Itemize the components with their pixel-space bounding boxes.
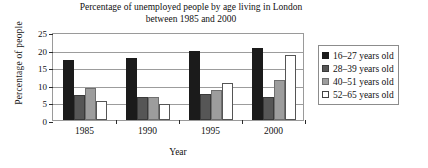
chart-legend: 16–27 years old28–39 years old40–51 year… — [318, 45, 399, 105]
bar — [189, 51, 200, 120]
x-axis-tick — [116, 120, 117, 124]
legend-label: 16–27 years old — [333, 51, 394, 61]
y-axis-tick — [49, 122, 53, 123]
bar-group — [242, 34, 305, 120]
legend-swatch-icon — [322, 65, 329, 72]
legend-swatch-icon — [322, 91, 329, 98]
x-axis-tick — [179, 120, 180, 124]
x-axis-tick — [305, 120, 306, 124]
bar-group — [116, 34, 179, 120]
chart-title-line-1: Percentage of unemployed people by age l… — [46, 2, 336, 14]
plot-inner: 05101520251985199019952000 — [53, 34, 303, 120]
y-axis-tick-label: 5 — [43, 99, 48, 109]
y-axis-tick-label: 20 — [38, 47, 47, 57]
chart-title-line-2: between 1985 and 2000 — [46, 14, 336, 26]
legend-swatch-icon — [322, 52, 329, 59]
bar — [211, 90, 222, 120]
bar — [159, 104, 170, 120]
chart-title: Percentage of unemployed people by age l… — [46, 2, 336, 25]
y-axis-tick-label: 25 — [38, 29, 47, 39]
legend-label: 40–51 years old — [333, 77, 394, 87]
bar — [200, 94, 211, 120]
y-axis-title: Percentage of people — [14, 13, 24, 113]
bar — [63, 60, 74, 120]
bar — [126, 58, 137, 120]
bar — [148, 97, 159, 120]
bar — [222, 83, 233, 120]
legend-item: 28–39 years old — [322, 62, 394, 75]
bar — [74, 95, 85, 120]
bar — [285, 55, 296, 120]
x-axis-tick-label: 1990 — [138, 126, 157, 136]
x-axis-tick-label: 1995 — [201, 126, 220, 136]
legend-label: 52–65 years old — [333, 90, 394, 100]
bar — [274, 80, 285, 120]
legend-label: 28–39 years old — [333, 64, 394, 74]
y-axis-tick-label: 15 — [38, 64, 47, 74]
legend-item: 52–65 years old — [322, 88, 394, 101]
x-axis-tick-label: 2000 — [264, 126, 283, 136]
y-axis-tick-label: 10 — [38, 82, 47, 92]
y-axis-tick-label: 0 — [43, 117, 48, 127]
x-axis-tick — [242, 120, 243, 124]
bar — [137, 97, 148, 120]
bar — [85, 88, 96, 120]
bar-group — [179, 34, 242, 120]
bar-chart: Percentage of unemployed people by age l… — [0, 0, 428, 168]
legend-item: 16–27 years old — [322, 49, 394, 62]
x-axis-tick-label: 1985 — [75, 126, 94, 136]
x-axis-title: Year — [52, 147, 304, 157]
bar — [252, 48, 263, 120]
bar — [96, 101, 107, 120]
plot-area: 05101520251985199019952000 — [52, 33, 304, 121]
bar — [263, 97, 274, 120]
legend-item: 40–51 years old — [322, 75, 394, 88]
bar-group — [53, 34, 116, 120]
legend-swatch-icon — [322, 78, 329, 85]
